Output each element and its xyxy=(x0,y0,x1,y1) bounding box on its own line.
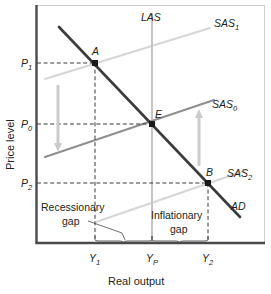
point-label-B: B xyxy=(206,166,213,178)
y-tick-P1: P1 xyxy=(21,57,32,72)
y-tick-P0: P0 xyxy=(21,118,33,133)
point-marker-E xyxy=(149,121,155,127)
point-label-A: A xyxy=(91,45,99,57)
inflationary-gap-line2: gap xyxy=(170,223,188,235)
curve-label-AD: AD xyxy=(230,200,246,212)
aggregate-supply-demand-diagram: Price level Real output P1 P0 P2 Y1 YP xyxy=(0,0,271,294)
y-axis-title: Price level xyxy=(4,119,16,170)
curve-label-LAS: LAS xyxy=(141,11,161,23)
recessionary-gap-line1: Recessionary xyxy=(41,201,105,213)
recessionary-gap-line2: gap xyxy=(62,215,80,227)
point-marker-B xyxy=(205,180,211,186)
point-label-E: E xyxy=(155,108,163,120)
y-tick-P2: P2 xyxy=(21,177,33,192)
x-axis-title: Real output xyxy=(108,275,164,287)
x-tick-Y1: Y1 xyxy=(89,252,100,267)
x-tick-Yp: YP xyxy=(146,252,158,267)
inflationary-gap-line1: Inflationary xyxy=(151,209,203,221)
point-marker-A xyxy=(92,60,98,66)
x-tick-Y2: Y2 xyxy=(202,252,214,267)
